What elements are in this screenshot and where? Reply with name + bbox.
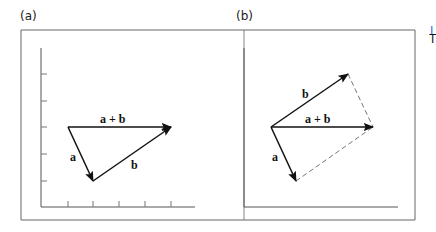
label-a-b: b (131, 158, 138, 172)
label-a-a: a (70, 150, 76, 164)
panel-b-vectors: b a + b a (271, 74, 373, 181)
label-b-b: b (302, 87, 309, 101)
label-b-a: a (272, 150, 278, 164)
dashed-a-parallel (348, 74, 373, 127)
panel-a-vectors: a + b a b (68, 112, 171, 181)
outer-frame (21, 30, 415, 220)
label-b-sum: a + b (305, 112, 331, 126)
vector-b (93, 127, 171, 181)
dashed-b-parallel (296, 127, 373, 181)
label-a-sum: a + b (100, 112, 126, 126)
